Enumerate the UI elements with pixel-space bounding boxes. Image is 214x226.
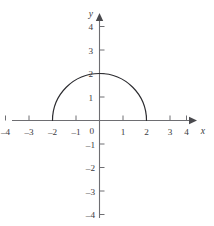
x-axis-arrowhead	[189, 117, 197, 124]
x-tick-label--2: –2	[47, 127, 58, 137]
axes-group	[12, 13, 197, 218]
x-tick-label-3: 3	[168, 127, 173, 137]
x-tick-label--3: –3	[23, 127, 34, 137]
y-tick-label-2: 2	[88, 69, 93, 79]
y-tick-label--3: –3	[85, 187, 96, 197]
x-tick-label--4: –4	[0, 127, 11, 137]
x-tick-label-2: 2	[144, 127, 149, 137]
y-axis-arrowhead	[96, 13, 103, 21]
x-tick-label-1: 1	[121, 127, 126, 137]
y-tick-label--2: –2	[85, 163, 96, 173]
y-tick-label--1: –1	[85, 140, 96, 150]
x-axis-ticks	[6, 116, 187, 121]
y-tick-label-1: 1	[88, 93, 93, 103]
x-axis-label: x	[200, 125, 206, 136]
x-tick-labels: –4 –3 –2 –1 1 2 3 4	[0, 127, 189, 137]
y-axis-label: y	[88, 8, 94, 19]
graph-figure: –4 –3 –2 –1 1 2 3 4 4 3 2 1 –1 –2 –3 –4 …	[0, 0, 214, 226]
x-tick-label--1: –1	[70, 127, 81, 137]
y-tick-label-3: 3	[88, 46, 93, 56]
x-tick-label-4: 4	[184, 127, 189, 137]
y-tick-label--4: –4	[85, 210, 96, 220]
origin-label: 0	[89, 126, 94, 136]
y-tick-label-4: 4	[88, 22, 93, 32]
coordinate-plot: –4 –3 –2 –1 1 2 3 4 4 3 2 1 –1 –2 –3 –4 …	[0, 0, 214, 226]
